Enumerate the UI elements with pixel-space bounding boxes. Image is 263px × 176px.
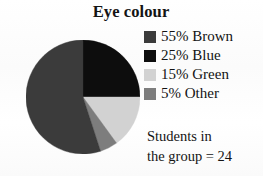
legend-swatch-other	[144, 88, 156, 100]
pie-graphic	[26, 40, 140, 154]
pie-chart-figure: Eye colour 55% Brown 25% Blue 15% Green …	[0, 0, 263, 176]
legend-swatch-blue	[144, 50, 156, 62]
legend-item-other: 5% Other	[144, 84, 263, 103]
caption-line-2: the group = 24	[147, 146, 263, 166]
legend-item-blue: 25% Blue	[144, 46, 263, 65]
chart-legend: 55% Brown 25% Blue 15% Green 5% Other	[144, 27, 263, 103]
legend-swatch-green	[144, 69, 156, 81]
pie-slice-blue	[83, 40, 140, 97]
legend-swatch-brown	[144, 31, 156, 43]
legend-label-brown: 55% Brown	[161, 27, 233, 46]
legend-label-green: 15% Green	[161, 65, 229, 84]
pie-slice-group	[26, 40, 140, 154]
pie-svg	[26, 40, 140, 154]
chart-caption: Students in the group = 24	[147, 126, 263, 166]
legend-label-blue: 25% Blue	[161, 46, 221, 65]
caption-line-1: Students in	[147, 126, 263, 146]
legend-item-green: 15% Green	[144, 65, 263, 84]
chart-title: Eye colour	[36, 2, 226, 22]
legend-label-other: 5% Other	[161, 84, 219, 103]
legend-item-brown: 55% Brown	[144, 27, 263, 46]
pie-chart-area	[26, 31, 140, 167]
